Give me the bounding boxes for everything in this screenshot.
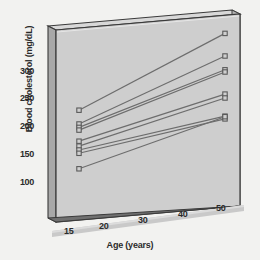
y-axis-title: Blood cholesterol (mg/dL) xyxy=(24,4,34,154)
data-point-marker xyxy=(223,31,227,35)
data-point-marker xyxy=(223,54,227,58)
y-tick-100: 100 xyxy=(8,177,34,187)
y-tick-200: 200 xyxy=(8,121,34,131)
series-group xyxy=(77,31,227,171)
data-point-marker xyxy=(77,167,81,171)
data-point-marker xyxy=(77,108,81,112)
x-tick-15: 15 xyxy=(64,226,73,236)
data-point-marker xyxy=(223,96,227,100)
x-tick-30: 30 xyxy=(138,215,147,225)
series-line xyxy=(79,117,225,169)
data-point-marker xyxy=(77,128,81,132)
y-tick-150: 150 xyxy=(8,149,34,159)
data-point-marker xyxy=(77,151,81,155)
series-line xyxy=(79,56,225,124)
y-tick-250: 250 xyxy=(8,93,34,103)
data-layer xyxy=(0,0,260,260)
x-tick-50: 50 xyxy=(216,203,225,213)
x-tick-40: 40 xyxy=(178,209,187,219)
x-tick-20: 20 xyxy=(99,221,108,231)
y-tick-300: 300 xyxy=(8,66,34,76)
data-point-marker xyxy=(77,139,81,143)
x-axis-title: Age (years) xyxy=(0,240,260,250)
data-point-marker xyxy=(223,115,227,119)
series-line xyxy=(79,98,225,146)
data-point-marker xyxy=(223,70,227,74)
chart-figure: Blood cholesterol (mg/dL) 300 250 200 15… xyxy=(0,0,260,260)
